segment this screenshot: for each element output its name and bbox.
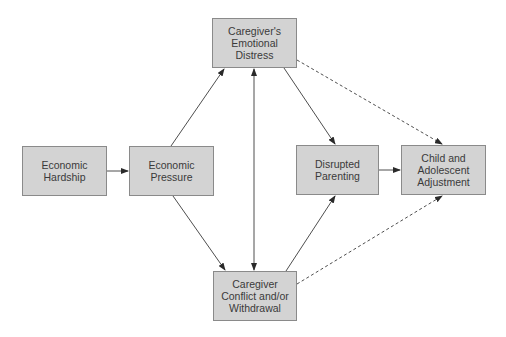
node-caregiver-emotional-distress: Caregiver's Emotional Distress (212, 18, 297, 68)
path-diagram: Economic Hardship Economic Pressure Care… (0, 0, 506, 337)
node-disrupted-parenting: Disrupted Parenting (296, 145, 379, 195)
edge-conflict-to-parenting (286, 196, 335, 271)
edge-pressure-to-conflict (173, 196, 225, 270)
edge-conflict-to-child-dashed (297, 196, 442, 284)
edge-distress-to-parenting (284, 68, 335, 144)
node-caregiver-conflict-withdrawal: Caregiver Conflict and/or Withdrawal (213, 271, 297, 321)
edge-pressure-to-distress (171, 69, 224, 146)
node-economic-hardship: Economic Hardship (22, 146, 107, 196)
node-economic-pressure: Economic Pressure (129, 146, 214, 196)
node-child-adolescent-adjustment: Child and Adolescent Adjustment (401, 145, 486, 195)
edge-distress-to-child-dashed (297, 60, 442, 144)
